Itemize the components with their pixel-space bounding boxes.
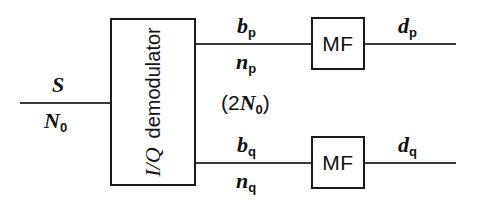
output-p-subscript: p	[409, 25, 417, 40]
noise-density-subscript: 0	[256, 102, 263, 117]
branch-q-signal-symbol: b	[237, 132, 248, 157]
branch-p-noise-label: np	[236, 51, 256, 73]
noise-density-factor: 2	[228, 91, 240, 114]
noise-density-symbol: N	[240, 90, 256, 115]
output-q-label: dq	[398, 134, 417, 156]
branch-q-noise-label: nq	[236, 170, 256, 192]
output-q-subscript: q	[409, 144, 417, 159]
input-wire	[20, 102, 112, 104]
output-p-symbol: d	[398, 13, 409, 38]
iq-demodulator-label-group: I/Q demodulator	[142, 27, 164, 177]
input-noise-label: N0	[44, 110, 67, 132]
branch-q-wire	[195, 162, 313, 164]
iq-demodulator-label-italic: I/Q	[142, 147, 164, 176]
matched-filter-bottom-block: MF	[311, 136, 365, 189]
branch-p-signal-subscript: p	[248, 25, 256, 40]
branch-p-wire	[195, 43, 313, 45]
matched-filter-top-block: MF	[311, 17, 365, 70]
iq-demodulator-label-word: demodulator	[143, 27, 163, 138]
branch-q-signal-label: bq	[237, 134, 256, 156]
input-noise-subscript: 0	[60, 120, 67, 135]
branch-p-noise-subscript: p	[248, 61, 256, 76]
input-noise-symbol: N	[44, 108, 60, 133]
noise-density-label: (2N0)	[221, 92, 270, 114]
branch-p-signal-label: bp	[237, 15, 256, 37]
noise-density-open-paren: (	[221, 91, 228, 114]
output-p-label: dp	[398, 15, 417, 37]
input-signal-label: S	[52, 74, 64, 96]
output-q-wire	[364, 162, 456, 164]
branch-q-noise-subscript: q	[248, 180, 256, 195]
output-q-symbol: d	[398, 132, 409, 157]
branch-p-signal-symbol: b	[237, 13, 248, 38]
block-diagram-canvas: I/Q demodulator MF MF S N0 bp np (2N0) b…	[0, 0, 477, 202]
output-p-wire	[364, 43, 456, 45]
input-signal-symbol: S	[52, 72, 64, 97]
matched-filter-bottom-label: MF	[322, 152, 353, 173]
noise-density-close-paren: )	[263, 91, 270, 114]
branch-q-signal-subscript: q	[248, 144, 256, 159]
branch-p-noise-symbol: n	[236, 49, 248, 74]
matched-filter-top-label: MF	[322, 33, 353, 54]
iq-demodulator-block: I/Q demodulator	[110, 18, 196, 186]
branch-q-noise-symbol: n	[236, 168, 248, 193]
